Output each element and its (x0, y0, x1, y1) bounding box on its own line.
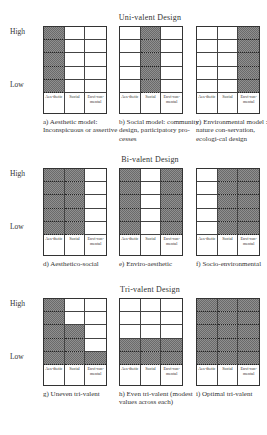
valence-grid: Aes-theticSocialEnvi-ron-mental (43, 168, 107, 256)
grid-cell-aesthetic-empty (120, 299, 141, 312)
grid-cell-environmental-empty (85, 209, 106, 222)
grid-cell-environmental-shaded (85, 352, 106, 365)
grid-cell-environmental-empty (85, 27, 106, 40)
grid-cell-social-empty (218, 27, 239, 40)
section-title-tri-valent: Tri-valent Design (0, 285, 267, 294)
panel-tri-valent-1: Aes-theticSocialEnvi-ron-mentalg) Uneven… (43, 298, 107, 398)
column-label-environmental: Envi-ron-mental (85, 235, 106, 255)
grid-cell-aesthetic-shaded (197, 299, 218, 312)
grid-cell-aesthetic-shaded (197, 352, 218, 365)
panel-uni-valent-1: Aes-theticSocialEnvi-ron-mentala) Aesthe… (43, 26, 107, 135)
grid-cell-social-shaded (218, 169, 239, 182)
column-label-social: Social (141, 235, 162, 255)
column-label-social: Social (141, 365, 162, 385)
valence-grid: Aes-theticSocialEnvi-ron-mental (119, 26, 183, 114)
panel-caption: g) Uneven tri-valent (43, 390, 123, 399)
grid-cell-aesthetic-empty (120, 80, 141, 93)
grid-cell-aesthetic-shaded (44, 312, 65, 325)
grid-cell-environmental-empty (161, 325, 182, 338)
grid-cell-social-shaded (141, 67, 162, 80)
grid-cell-social-shaded (141, 339, 162, 352)
panel-bi-valent-3: Aes-theticSocialEnvi-ron-mentalf) Socio-… (196, 168, 260, 268)
grid-cell-aesthetic-shaded (44, 182, 65, 195)
grid-cell-social-shaded (218, 299, 239, 312)
grid-cell-aesthetic-empty (120, 53, 141, 66)
grid-cell-social-shaded (65, 222, 86, 235)
column-label-social: Social (218, 235, 239, 255)
grid-cell-aesthetic-shaded (44, 80, 65, 93)
grid-cell-environmental-shaded (161, 195, 182, 208)
column-label-aesthetic: Aes-thetic (197, 93, 218, 113)
column-label-aesthetic: Aes-thetic (44, 365, 65, 385)
column-label-social: Social (65, 93, 86, 113)
grid-cell-social-shaded (218, 352, 239, 365)
grid-cell-social-shaded (65, 169, 86, 182)
grid-cell-environmental-shaded (238, 67, 259, 80)
grid-cell-environmental-empty (161, 40, 182, 53)
grid-cell-aesthetic-shaded (120, 195, 141, 208)
grid-cell-environmental-empty (85, 169, 106, 182)
column-label-environmental: Envi-ron-mental (85, 365, 106, 385)
column-label-aesthetic: Aes-thetic (44, 235, 65, 255)
grid-cell-environmental-shaded (161, 209, 182, 222)
panel-caption: c) Environmental model : nature con-serv… (196, 118, 267, 144)
axis-label-high: High (10, 27, 25, 36)
panel-caption: f) Socio-environmental (196, 260, 267, 269)
column-label-aesthetic: Aes-thetic (120, 235, 141, 255)
grid-cell-aesthetic-shaded (44, 222, 65, 235)
grid-cell-social-empty (218, 67, 239, 80)
grid-cell-social-empty (218, 53, 239, 66)
grid-cell-aesthetic-shaded (44, 67, 65, 80)
column-label-environmental: Envi-ron-mental (161, 93, 182, 113)
grid-cell-social-shaded (65, 339, 86, 352)
grid-cell-social-shaded (65, 325, 86, 338)
grid-cell-environmental-empty (161, 80, 182, 93)
grid-cell-environmental-empty (85, 53, 106, 66)
section-title-uni-valent: Uni-valent Design (0, 13, 267, 22)
grid-cell-social-shaded (141, 80, 162, 93)
grid-cell-environmental-shaded (238, 169, 259, 182)
grid-cell-environmental-shaded (238, 40, 259, 53)
grid-cell-environmental-empty (85, 299, 106, 312)
grid-cell-social-empty (65, 40, 86, 53)
axis-label-high: High (10, 299, 25, 308)
grid-cell-environmental-shaded (238, 182, 259, 195)
axis-label-low: Low (10, 222, 24, 231)
column-label-aesthetic: Aes-thetic (197, 235, 218, 255)
grid-cell-aesthetic-shaded (197, 312, 218, 325)
grid-cell-social-empty (141, 169, 162, 182)
grid-cell-aesthetic-shaded (44, 27, 65, 40)
grid-cell-aesthetic-shaded (120, 169, 141, 182)
grid-cell-aesthetic-shaded (120, 339, 141, 352)
grid-cell-environmental-empty (85, 222, 106, 235)
grid-cell-environmental-shaded (161, 352, 182, 365)
grid-cell-social-shaded (141, 40, 162, 53)
column-label-environmental: Envi-ron-mental (161, 235, 182, 255)
grid-cell-social-empty (65, 67, 86, 80)
grid-cell-social-shaded (218, 209, 239, 222)
grid-cell-social-empty (65, 80, 86, 93)
column-label-social: Social (65, 235, 86, 255)
grid-cell-environmental-empty (85, 80, 106, 93)
column-label-aesthetic: Aes-thetic (120, 93, 141, 113)
valence-grid: Aes-theticSocialEnvi-ron-mental (196, 26, 260, 114)
grid-cell-social-empty (141, 222, 162, 235)
grid-cell-environmental-shaded (161, 182, 182, 195)
grid-cell-social-empty (141, 325, 162, 338)
panel-uni-valent-2: Aes-theticSocialEnvi-ron-mentalb) Social… (119, 26, 183, 143)
column-label-aesthetic: Aes-thetic (197, 365, 218, 385)
valence-grid: Aes-theticSocialEnvi-ron-mental (119, 168, 183, 256)
grid-cell-social-shaded (218, 325, 239, 338)
grid-cell-aesthetic-shaded (44, 299, 65, 312)
panel-bi-valent-2: Aes-theticSocialEnvi-ron-mentale) Enviro… (119, 168, 183, 268)
grid-cell-aesthetic-shaded (44, 195, 65, 208)
grid-cell-environmental-shaded (238, 222, 259, 235)
grid-cell-aesthetic-empty (120, 312, 141, 325)
panel-caption: a) Aesthetic model: Inconspicuous or ass… (43, 118, 123, 135)
grid-cell-social-empty (65, 299, 86, 312)
column-label-environmental: Envi-ron-mental (238, 235, 259, 255)
grid-cell-environmental-shaded (238, 209, 259, 222)
grid-cell-aesthetic-shaded (120, 209, 141, 222)
grid-cell-aesthetic-shaded (44, 53, 65, 66)
grid-cell-environmental-shaded (238, 312, 259, 325)
